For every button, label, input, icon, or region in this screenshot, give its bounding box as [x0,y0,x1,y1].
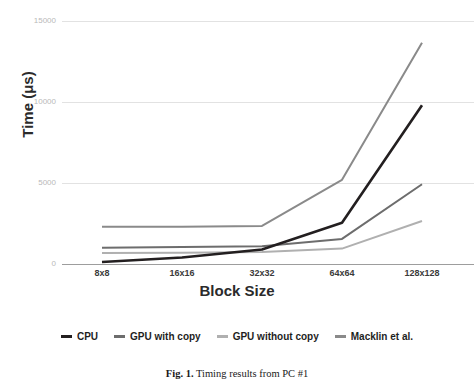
legend-item-cpu[interactable]: CPU [61,331,98,342]
figure-caption-text: Timing results from PC #1 [196,368,308,379]
legend-label: GPU with copy [130,331,201,342]
figure-caption: Fig. 1. Timing results from PC #1 [0,368,474,379]
legend-swatch-icon [217,335,228,338]
x-tick-label-128x128: 128x128 [387,268,457,278]
legend-label: CPU [77,331,98,342]
x-axis-title: Block Size [0,282,474,299]
legend-swatch-icon [61,335,72,338]
x-tick-label-8x8: 8x8 [67,268,137,278]
series-line-macklin-et-al- [102,43,422,227]
legend-item-gpu-with-copy[interactable]: GPU with copy [114,331,201,342]
chart-legend: CPUGPU with copyGPU without copyMacklin … [0,331,474,342]
x-tick-label-64x64: 64x64 [307,268,377,278]
x-tick-label-16x16: 16x16 [147,268,217,278]
chart-series-svg [0,0,474,300]
legend-label: Macklin et al. [351,331,413,342]
x-tick-label-32x32: 32x32 [227,268,297,278]
legend-item-gpu-without-copy[interactable]: GPU without copy [217,331,319,342]
legend-swatch-icon [335,335,346,338]
legend-item-macklin-et-al-[interactable]: Macklin et al. [335,331,413,342]
figure-number: Fig. 1. [166,368,194,379]
chart-plot-area: Time (μs) 050001000015000 8x816x1632x326… [0,0,474,300]
legend-swatch-icon [114,335,125,338]
legend-label: GPU without copy [233,331,319,342]
